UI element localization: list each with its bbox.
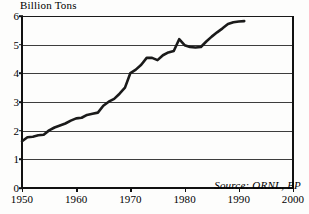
data-line-carbon-emissions [22,21,244,141]
chart-container: Billion Tons 0123456 1950196019701980199… [0,0,309,214]
source-annotation: Source: ORNL, BP [214,179,301,192]
